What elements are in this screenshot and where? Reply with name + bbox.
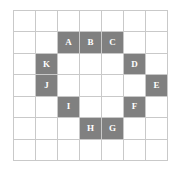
grid-cell-empty[interactable] [146,140,168,161]
grid-cell-filled[interactable]: A [58,32,80,53]
grid-cell-filled[interactable]: E [146,75,168,96]
grid-cell-empty[interactable] [14,54,36,75]
grid-cell-empty[interactable] [58,75,80,96]
grid-cell-empty[interactable] [14,75,36,96]
puzzle-grid: ABCKDJEIFHG [13,10,168,161]
grid-cell-empty[interactable] [14,140,36,161]
grid-cell-empty[interactable] [124,32,146,53]
grid-cell-empty[interactable] [14,11,36,32]
grid-cell-filled[interactable]: G [102,118,124,139]
grid-cell-empty[interactable] [58,11,80,32]
grid-cell-filled[interactable]: J [36,75,58,96]
grid-cell-empty[interactable] [146,11,168,32]
grid-cell-empty[interactable] [80,11,102,32]
grid-cell-empty[interactable] [80,75,102,96]
grid-cell-empty[interactable] [146,118,168,139]
grid-cell-empty[interactable] [80,54,102,75]
grid-cell-empty[interactable] [124,11,146,32]
grid-cell-empty[interactable] [80,97,102,118]
cell-letter-i: I [67,102,71,111]
grid-cell-filled[interactable]: C [102,32,124,53]
cell-letter-d: D [131,59,138,68]
grid-cell-empty[interactable] [36,140,58,161]
grid-cell-empty[interactable] [36,118,58,139]
grid-cell-filled[interactable]: H [80,118,102,139]
grid-cell-empty[interactable] [124,75,146,96]
grid-cell-empty[interactable] [102,140,124,161]
cell-letter-j: J [44,80,49,89]
cell-letter-g: G [109,123,116,132]
grid-cell-empty[interactable] [14,32,36,53]
grid-cell-empty[interactable] [58,140,80,161]
grid-cell-empty[interactable] [14,97,36,118]
cell-letter-f: F [132,102,138,111]
grid-cell-empty[interactable] [146,97,168,118]
grid-cell-empty[interactable] [36,32,58,53]
grid-cell-filled[interactable]: I [58,97,80,118]
grid-cell-empty[interactable] [36,11,58,32]
grid-cell-empty[interactable] [80,140,102,161]
grid-cell-empty[interactable] [58,54,80,75]
cell-letter-b: B [87,38,93,47]
cell-letter-a: A [65,38,72,47]
cell-letter-e: E [153,80,159,89]
grid-cell-empty[interactable] [102,75,124,96]
grid-cell-empty[interactable] [102,11,124,32]
grid-cell-empty[interactable] [36,97,58,118]
grid-cell-empty[interactable] [146,32,168,53]
grid-cell-filled[interactable]: B [80,32,102,53]
cell-letter-c: C [109,38,116,47]
grid-cell-empty[interactable] [124,118,146,139]
grid-cell-filled[interactable]: K [36,54,58,75]
grid-cell-empty[interactable] [14,118,36,139]
grid-cell-filled[interactable]: F [124,97,146,118]
figure-root: ABCKDJEIFHG [0,0,180,172]
grid-cell-empty[interactable] [102,54,124,75]
grid-cell-empty[interactable] [102,97,124,118]
grid-cell-empty[interactable] [146,54,168,75]
grid-cell-empty[interactable] [124,140,146,161]
grid-cell-empty[interactable] [58,118,80,139]
cell-letter-k: K [43,59,50,68]
cell-letter-h: H [87,123,94,132]
grid-cell-filled[interactable]: D [124,54,146,75]
